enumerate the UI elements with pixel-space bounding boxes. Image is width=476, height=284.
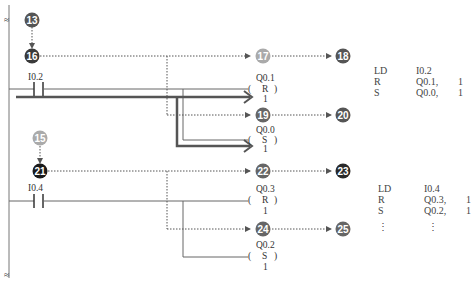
il2-arg-0: I0.4 xyxy=(424,183,440,194)
svg-text:): ) xyxy=(274,84,277,95)
rail-break-bottom: ≈ xyxy=(4,270,9,280)
il1-arg-0: I0.2 xyxy=(416,65,432,76)
svg-text:18: 18 xyxy=(337,51,349,62)
step-nodes: 13 16 17 18 19 20 15 21 22 23 24 25 xyxy=(25,13,351,237)
svg-text:(: ( xyxy=(248,195,251,206)
svg-text:Q0.2: Q0.2 xyxy=(256,240,275,250)
svg-text:23: 23 xyxy=(337,166,349,177)
il1-n-1: 1 xyxy=(458,76,463,87)
node-22: 22 xyxy=(256,164,271,179)
contact-label-i04: I0.4 xyxy=(28,183,43,193)
coil-q02-set: Q0.2 ( S ) 1 xyxy=(248,240,277,272)
svg-text:1: 1 xyxy=(263,94,268,104)
il2-arg-1: Q0.3, xyxy=(424,194,446,205)
node-16: 16 xyxy=(25,49,40,64)
svg-text:17: 17 xyxy=(257,51,269,62)
flow-arrow-bottom xyxy=(177,97,250,146)
il1-op-1: R xyxy=(374,76,381,87)
svg-text:19: 19 xyxy=(257,110,269,121)
il1-op-2: S xyxy=(374,87,380,98)
svg-text:(: ( xyxy=(248,135,251,146)
svg-text:25: 25 xyxy=(337,224,349,235)
node-25: 25 xyxy=(336,222,351,237)
flow-paths-2 xyxy=(40,146,331,229)
svg-text:): ) xyxy=(274,135,277,146)
svg-text:): ) xyxy=(274,195,277,206)
svg-text:1: 1 xyxy=(263,262,268,272)
svg-text:24: 24 xyxy=(257,224,269,235)
node-18: 18 xyxy=(336,49,351,64)
il2-op-0: LD xyxy=(378,183,391,194)
rung-2: I0.4 Q0.3 ( R ) 1 Q0.2 ( S ) 1 xyxy=(9,183,277,272)
node-17: 17 xyxy=(256,49,271,64)
node-19: 19 xyxy=(256,108,271,123)
svg-text:Q0.0: Q0.0 xyxy=(256,125,275,135)
il2-op-1: R xyxy=(378,194,385,205)
svg-text:Q0.1: Q0.1 xyxy=(256,73,275,83)
svg-text:1: 1 xyxy=(263,144,268,154)
svg-text:21: 21 xyxy=(34,166,46,177)
il2-n-1: 1 xyxy=(466,194,471,205)
coil-q01-reset: Q0.1 ( R ) 1 xyxy=(248,73,277,104)
il1-arg-1: Q0.1, xyxy=(416,76,438,87)
node-24: 24 xyxy=(256,222,271,237)
svg-text:22: 22 xyxy=(257,166,269,177)
svg-text:15: 15 xyxy=(34,133,46,144)
il1-arg-2: Q0.0, xyxy=(416,87,438,98)
il2-arg-2: Q0.2, xyxy=(424,205,446,216)
rung-1: I0.2 Q0.1 ( R ) 1 Q0.0 ( S ) 1 xyxy=(9,72,277,154)
flow-paths-1 xyxy=(32,27,331,115)
svg-text:R: R xyxy=(262,84,269,94)
il2-op-2: S xyxy=(378,205,384,216)
node-20: 20 xyxy=(336,108,351,123)
svg-text:(: ( xyxy=(248,251,251,262)
svg-text:): ) xyxy=(274,251,277,262)
svg-text:16: 16 xyxy=(26,51,38,62)
coil-q00-set: Q0.0 ( S ) 1 xyxy=(248,125,277,154)
node-15: 15 xyxy=(33,131,48,146)
svg-text:Q0.3: Q0.3 xyxy=(256,184,275,194)
rail-break-top: ≈ xyxy=(4,15,9,25)
svg-text:R: R xyxy=(262,195,269,205)
svg-text:13: 13 xyxy=(26,15,38,26)
node-23: 23 xyxy=(336,164,351,179)
contact-label-i02: I0.2 xyxy=(28,72,43,82)
il1-n-2: 1 xyxy=(458,87,463,98)
instruction-list-1: LD I0.2 R Q0.1, 1 S Q0.0, 1 xyxy=(374,65,474,105)
svg-text:1: 1 xyxy=(263,206,268,216)
instruction-list-2: LD I0.4 R Q0.3, 1 S Q0.2, 1 ⋮ ⋮ xyxy=(378,183,474,243)
svg-text:20: 20 xyxy=(337,110,349,121)
left-power-rail: ≈ ≈ xyxy=(4,5,9,280)
il2-n-2: 1 xyxy=(466,205,471,216)
il2-op-3: ⋮ xyxy=(378,221,388,232)
coil-q03-reset: Q0.3 ( R ) 1 xyxy=(248,184,277,216)
svg-text:(: ( xyxy=(248,84,251,95)
svg-text:S: S xyxy=(262,251,267,261)
il1-op-0: LD xyxy=(374,65,387,76)
il2-arg-3: ⋮ xyxy=(428,221,438,232)
node-21: 21 xyxy=(33,164,48,179)
node-13: 13 xyxy=(25,13,40,28)
